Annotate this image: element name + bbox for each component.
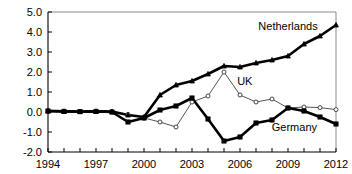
y-tick-label: 4.0 — [27, 26, 42, 38]
data-point-germany — [302, 109, 306, 113]
chart-canvas: -2.0-1.00.01.02.03.04.05.019941997200020… — [0, 0, 352, 174]
data-point-germany — [78, 110, 82, 114]
series-annotation-netherlands: Netherlands — [258, 20, 318, 32]
data-point-uk — [302, 105, 306, 109]
data-point-germany — [222, 139, 226, 143]
y-tick-label: -1.0 — [23, 126, 42, 138]
x-tick-label: 1997 — [84, 158, 108, 170]
data-point-uk — [158, 120, 162, 124]
data-point-uk — [206, 94, 210, 98]
x-tick-label: 1994 — [36, 158, 60, 170]
data-point-germany — [318, 115, 322, 119]
data-point-germany — [190, 96, 194, 100]
y-tick-label: 2.0 — [27, 66, 42, 78]
data-point-germany — [158, 108, 162, 112]
data-point-uk — [238, 93, 242, 97]
data-point-uk — [190, 100, 194, 104]
data-point-germany — [174, 104, 178, 108]
data-point-germany — [206, 117, 210, 121]
line-chart: -2.0-1.00.01.02.03.04.05.019941997200020… — [0, 0, 352, 174]
data-point-uk — [222, 70, 226, 74]
data-point-uk — [318, 106, 322, 110]
data-point-uk — [254, 100, 258, 104]
x-tick-label: 2006 — [228, 158, 252, 170]
data-point-uk — [334, 108, 338, 112]
data-point-germany — [334, 122, 338, 126]
data-point-germany — [110, 110, 114, 114]
data-point-germany — [286, 106, 290, 110]
data-point-germany — [142, 116, 146, 120]
data-point-germany — [94, 109, 98, 113]
data-point-uk — [270, 97, 274, 101]
x-tick-label: 2000 — [132, 158, 156, 170]
data-point-germany — [62, 109, 66, 113]
series-annotation-germany: Germany — [272, 121, 318, 133]
x-tick-label: 2012 — [324, 158, 348, 170]
data-point-uk — [174, 125, 178, 129]
y-tick-label: -2.0 — [23, 146, 42, 158]
y-tick-label: 1.0 — [27, 86, 42, 98]
data-point-germany — [126, 120, 130, 124]
data-point-germany — [238, 135, 242, 139]
series-annotation-uk: UK — [237, 75, 253, 87]
x-tick-label: 2003 — [180, 158, 204, 170]
y-tick-label: 5.0 — [27, 6, 42, 18]
y-tick-label: 3.0 — [27, 46, 42, 58]
y-tick-label: 0.0 — [27, 106, 42, 118]
x-tick-label: 2009 — [276, 158, 300, 170]
data-point-germany — [254, 121, 258, 125]
data-point-germany — [46, 109, 50, 113]
